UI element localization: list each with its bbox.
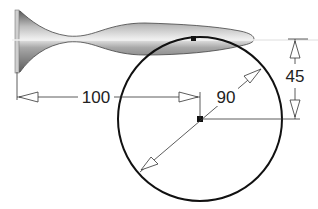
- arrowhead-icon: [290, 100, 300, 117]
- dimension-45[interactable]: 45: [203, 39, 308, 119]
- dimension-label-45: 45: [286, 67, 305, 86]
- cad-sketch-canvas: 100 90 45: [0, 0, 318, 209]
- arrowhead-icon: [290, 41, 300, 58]
- dimension-label-100: 100: [82, 88, 110, 107]
- arrowhead-icon: [179, 92, 198, 102]
- tangent-point[interactable]: [191, 36, 196, 41]
- dimension-90[interactable]: 90: [140, 69, 261, 172]
- revolved-body: [15, 10, 254, 73]
- arrowhead-icon: [19, 92, 38, 102]
- dimension-label-90: 90: [217, 88, 236, 107]
- dimension-100[interactable]: 100: [17, 72, 200, 119]
- tail-face: [15, 10, 19, 73]
